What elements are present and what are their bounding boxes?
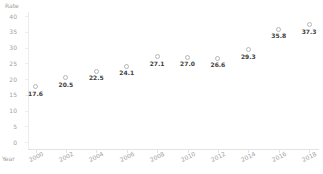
y-tick-label: 20 <box>0 76 17 83</box>
data-point-label: 27.1 <box>142 60 172 67</box>
y-tick-mark <box>25 48 28 49</box>
data-point-marker <box>94 69 99 74</box>
data-point-marker <box>246 47 251 52</box>
data-point-label: 20.5 <box>51 81 81 88</box>
y-tick-label: 25 <box>0 60 17 67</box>
data-point-label: 22.5 <box>81 74 111 81</box>
y-tick-label: 30 <box>0 44 17 51</box>
y-axis-line <box>28 12 29 150</box>
y-tick-label: 15 <box>0 91 17 98</box>
y-tick-label: 35 <box>0 28 17 35</box>
y-tick-mark <box>25 32 28 33</box>
data-point-label: 35.8 <box>264 32 294 39</box>
y-tick-mark <box>25 126 28 127</box>
y-tick-mark <box>25 111 28 112</box>
data-point-marker <box>185 55 190 60</box>
data-point-label: 29.3 <box>233 53 263 60</box>
y-tick-label: 10 <box>0 107 17 114</box>
y-tick-mark <box>25 16 28 17</box>
data-point-marker <box>63 75 68 80</box>
y-tick-mark <box>25 79 28 80</box>
data-point-label: 37.3 <box>294 28 323 35</box>
y-tick-label: 5 <box>0 123 17 130</box>
y-tick-label: 0 <box>0 139 17 146</box>
data-point-label: 24.1 <box>112 69 142 76</box>
y-tick-mark <box>25 63 28 64</box>
y-tick-label: 40 <box>0 13 17 20</box>
data-point-marker <box>276 27 281 32</box>
x-axis-title: Year <box>2 155 15 162</box>
data-point-marker <box>307 22 312 27</box>
data-point-marker <box>215 56 220 61</box>
data-point-marker <box>155 54 160 59</box>
y-axis-title: Rate <box>5 2 19 9</box>
y-tick-mark <box>25 142 28 143</box>
data-point-label: 17.6 <box>21 90 51 97</box>
data-point-marker <box>33 84 38 89</box>
data-point-label: 26.6 <box>203 61 233 68</box>
data-point-marker <box>124 64 129 69</box>
chart-root: Rate Year 403530252015105020002002200420… <box>0 0 323 174</box>
data-point-label: 27.0 <box>173 60 203 67</box>
